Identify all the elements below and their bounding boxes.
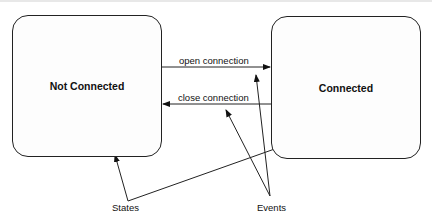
state-connected: Connected xyxy=(271,16,421,159)
state-not-connected: Not Connected xyxy=(12,15,162,157)
transition-label-open: open connection xyxy=(179,55,249,66)
states-pointer-left xyxy=(115,155,128,201)
state-label: Not Connected xyxy=(50,80,125,92)
events-pointer-open xyxy=(256,75,270,196)
annotation-events: Events xyxy=(257,202,286,213)
transition-label-close: close connection xyxy=(178,92,249,103)
state-label: Connected xyxy=(319,82,373,94)
annotation-states: States xyxy=(112,202,139,213)
